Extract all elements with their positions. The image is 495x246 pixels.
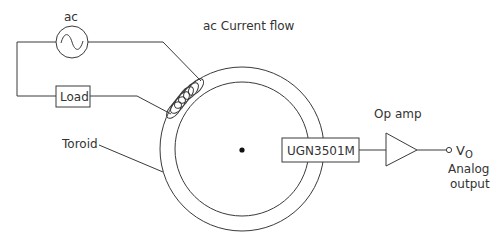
toroid-label: Toroid	[61, 137, 98, 151]
hall-sensor-box: UGN3501M	[282, 138, 359, 162]
ac-label: ac	[64, 10, 78, 24]
toroid-leader-line	[99, 145, 163, 172]
analog-caption-line2: output	[450, 177, 490, 191]
load-label: Load	[60, 90, 89, 104]
conductor-dot	[239, 147, 244, 152]
opamp-triangle-icon	[386, 133, 417, 166]
analog-caption-line1: Analog	[448, 162, 489, 176]
ac-source-icon	[56, 26, 88, 58]
opamp-label: Op amp	[374, 107, 422, 121]
load-box: Load	[56, 86, 90, 107]
output-voltage-label: VO	[456, 143, 473, 160]
sensor-label: UGN3501M	[287, 144, 355, 158]
current-sensor-diagram: ac ac Current flow Load Toroid	[0, 0, 495, 246]
output-terminal-icon	[446, 147, 451, 152]
current-flow-title: ac Current flow	[203, 19, 295, 33]
